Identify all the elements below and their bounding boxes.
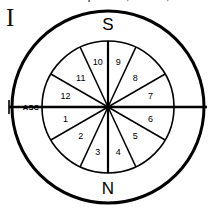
- house-cusp-line: [80, 107, 108, 167]
- cardinal-south-label: S: [102, 15, 113, 34]
- house-number-7: 7: [148, 91, 153, 101]
- house-cusp-line: [108, 107, 136, 167]
- cardinal-north-label: N: [102, 179, 114, 198]
- house-number-11: 11: [76, 73, 85, 83]
- house-number-3: 3: [95, 147, 100, 157]
- astrological-chart-svg: ASC S N 123456789101112: [0, 0, 216, 217]
- house-chart-figure: p entrance, like a seat, I ASC S N 12345…: [0, 0, 216, 217]
- house-number-8: 8: [133, 73, 138, 83]
- house-number-6: 6: [148, 114, 153, 124]
- house-number-10: 10: [93, 57, 103, 67]
- house-cusp-line: [108, 47, 136, 107]
- house-number-12: 12: [60, 91, 70, 101]
- house-number-4: 4: [116, 147, 121, 157]
- house-number-9: 9: [116, 57, 121, 67]
- house-number-2: 2: [78, 131, 83, 141]
- ascendant-label: ASC: [23, 103, 40, 112]
- house-number-1: 1: [63, 114, 68, 124]
- house-number-5: 5: [133, 131, 138, 141]
